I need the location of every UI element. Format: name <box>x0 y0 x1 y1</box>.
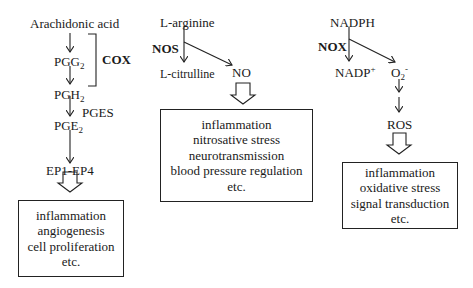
pge-text: PGE <box>54 118 79 133</box>
pge2-label: PGE2 <box>54 119 83 133</box>
cox-enzyme-label: COX <box>102 53 131 67</box>
arachidonic-acid-label: Arachidonic acid <box>30 17 119 31</box>
pgh2-label: PGH2 <box>54 88 85 102</box>
pgh-text: PGH <box>54 87 80 102</box>
nox-effects-box: inflammation oxidative stress signal tra… <box>342 162 458 229</box>
effect-item: neurotransmission <box>161 148 312 164</box>
pgg-subscript: 2 <box>80 61 85 71</box>
pge-subscript: 2 <box>79 125 84 135</box>
nadph-label: NADPH <box>330 16 375 30</box>
pgg-text: PGG <box>54 54 80 69</box>
nox-enzyme-label: NOX <box>318 40 347 54</box>
no-label: NO <box>232 66 251 80</box>
superoxide-label: O2- <box>391 66 408 80</box>
effect-item: inflammation <box>19 208 123 224</box>
cox-effects-box: inflammation angiogenesis cell prolifera… <box>18 200 124 277</box>
nadp-plus-label: NADP+ <box>335 66 375 80</box>
pges-enzyme-label: PGES <box>82 106 114 120</box>
l-citrulline-label: L-citrulline <box>160 67 215 81</box>
effect-item: etc. <box>343 211 457 227</box>
effect-item: etc. <box>19 254 123 270</box>
effect-item: inflammation <box>161 117 312 133</box>
superoxide-superscript: - <box>405 64 408 74</box>
effect-item: angiogenesis <box>19 223 123 239</box>
effect-item: blood pressure regulation <box>161 163 312 179</box>
effect-item: inflammation <box>343 165 457 181</box>
ep-receptors-label: EP1-EP4 <box>46 164 94 178</box>
nadp-text: NADP <box>335 65 370 80</box>
pgg2-label: PGG2 <box>54 55 85 69</box>
effect-item: nitrosative stress <box>161 132 312 148</box>
ros-label: ROS <box>387 118 412 132</box>
effect-item: etc. <box>161 179 312 195</box>
effect-item: oxidative stress <box>343 180 457 196</box>
nos-enzyme-label: NOS <box>152 42 179 56</box>
nadp-superscript: + <box>370 64 375 74</box>
superoxide-text: O <box>391 65 400 80</box>
l-arginine-label: L-arginine <box>160 16 215 30</box>
effect-item: signal transduction <box>343 196 457 212</box>
pgh-subscript: 2 <box>80 94 85 104</box>
effect-item: cell proliferation <box>19 239 123 255</box>
nos-effects-box: inflammation nitrosative stress neurotra… <box>160 109 313 202</box>
